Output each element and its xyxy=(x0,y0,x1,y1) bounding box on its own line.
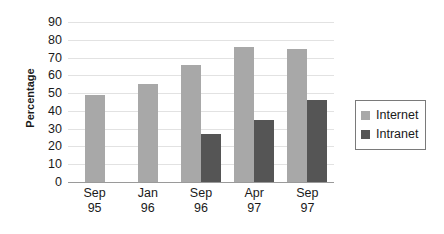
legend-swatch-icon xyxy=(361,111,370,120)
chart-legend: InternetIntranet xyxy=(355,100,426,150)
x-tick-label-year: 96 xyxy=(121,201,174,216)
x-tick-label: Sep95 xyxy=(68,186,121,216)
x-tick-label-year: 95 xyxy=(68,201,121,216)
y-tick-label: 40 xyxy=(36,105,62,117)
legend-item-internet[interactable]: Internet xyxy=(361,106,418,125)
y-axis-title: Percentage xyxy=(24,38,36,158)
bar-intranet-sep-97 xyxy=(307,100,327,182)
x-tick-label-year: 96 xyxy=(174,201,227,216)
bar-internet-sep-97 xyxy=(287,49,307,182)
plot-area xyxy=(68,22,334,182)
y-tick-label: 0 xyxy=(36,176,62,188)
bar-internet-sep-95 xyxy=(85,95,105,182)
y-tick-label: 80 xyxy=(36,34,62,46)
x-tick-label-year: 97 xyxy=(228,201,281,216)
legend-swatch-icon xyxy=(361,130,370,139)
x-tick-label-month: Jan xyxy=(121,186,174,201)
gridline xyxy=(68,182,334,183)
bar-internet-sep-96 xyxy=(181,65,201,182)
bar-internet-jan-96 xyxy=(138,84,158,182)
bar-intranet-sep-96 xyxy=(201,134,221,182)
x-tick-label-month: Sep xyxy=(281,186,334,201)
x-tick-label-month: Sep xyxy=(68,186,121,201)
x-tick-label-year: 97 xyxy=(281,201,334,216)
bar-intranet-apr-97 xyxy=(254,120,274,182)
y-tick-label: 30 xyxy=(36,123,62,135)
legend-item-intranet[interactable]: Intranet xyxy=(361,125,418,144)
x-tick-label: Sep96 xyxy=(174,186,227,216)
bar-chart: Percentage 9080706050403020100 Sep95Jan9… xyxy=(0,0,444,234)
bar-internet-apr-97 xyxy=(234,47,254,182)
x-tick-label: Apr97 xyxy=(228,186,281,216)
y-tick-label: 90 xyxy=(36,16,62,28)
x-tick-label-month: Apr xyxy=(228,186,281,201)
x-tick-label-month: Sep xyxy=(174,186,227,201)
gridline xyxy=(68,22,334,23)
legend-label: Intranet xyxy=(376,128,418,141)
y-tick-label: 50 xyxy=(36,87,62,99)
y-tick-label: 70 xyxy=(36,52,62,64)
x-tick-label: Jan96 xyxy=(121,186,174,216)
y-tick-label: 20 xyxy=(36,140,62,152)
x-tick-label: Sep97 xyxy=(281,186,334,216)
y-tick-label: 10 xyxy=(36,158,62,170)
y-tick-label: 60 xyxy=(36,69,62,81)
gridline xyxy=(68,40,334,41)
legend-label: Internet xyxy=(376,109,418,122)
